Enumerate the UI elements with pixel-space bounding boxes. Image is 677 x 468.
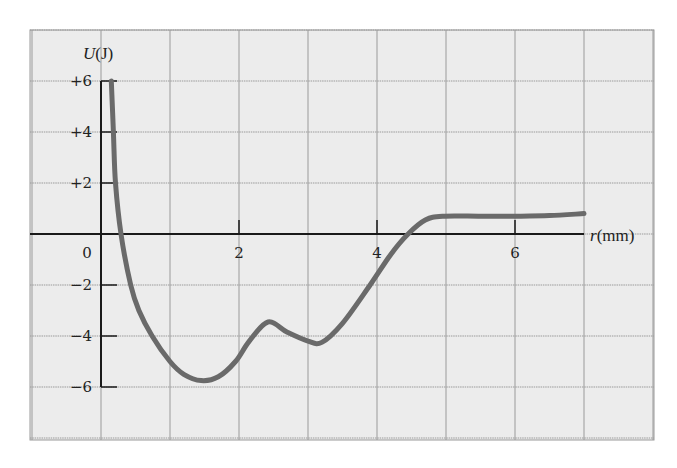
y-tick-label: −6 — [70, 378, 92, 396]
x-tick-label: 2 — [234, 244, 244, 262]
y-axis-label: U(J) — [83, 44, 113, 63]
y-tick-label: +6 — [70, 72, 92, 90]
y-tick-label: +2 — [70, 174, 92, 192]
x-tick-label: 6 — [510, 244, 520, 262]
x-tick-label: 0 — [82, 244, 92, 262]
potential-energy-chart: +6+4+2−2−4−60246 U(J) r(mm) — [0, 0, 677, 468]
x-tick-label: 4 — [372, 244, 382, 262]
y-tick-label: −2 — [70, 276, 92, 294]
y-tick-label: +4 — [70, 123, 92, 141]
x-axis-label: r(mm) — [590, 226, 634, 245]
y-tick-label: −4 — [70, 327, 92, 345]
